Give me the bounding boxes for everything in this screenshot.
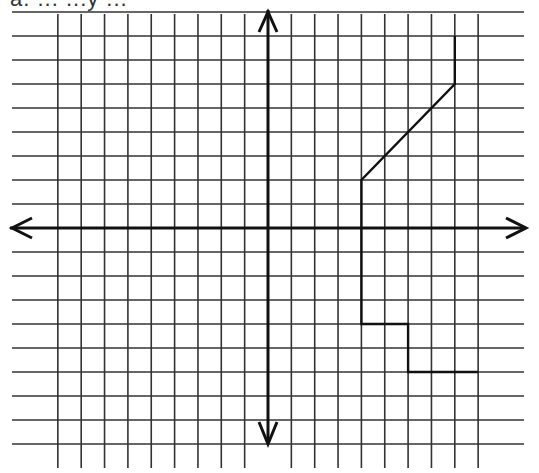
coordinate-plane: a. ... ...y ... — [0, 0, 539, 473]
header-text-fragment: a. ... ...y ... — [10, 0, 128, 12]
axes — [10, 10, 526, 444]
graph-svg — [0, 0, 539, 473]
